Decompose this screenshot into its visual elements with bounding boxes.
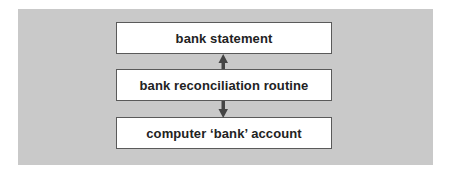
arrow-down-icon <box>0 0 454 180</box>
